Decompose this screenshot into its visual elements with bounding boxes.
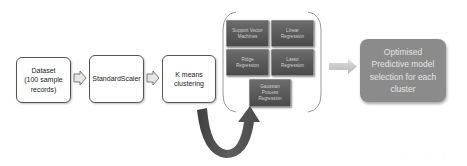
kmeans-box: K means clustering: [162, 55, 216, 103]
curved-arrow-icon: [194, 104, 264, 160]
model-label: Support Vector Machines: [232, 28, 262, 39]
model-box-gaussian: Gaussian Process Regression: [249, 79, 291, 107]
right-arrow-icon: [328, 58, 358, 75]
model-box-lasso: Lasso Regression: [271, 49, 314, 76]
result-box: Optimised Predictive model selection for…: [360, 39, 446, 102]
model-label: Gaussian Process Regression: [258, 84, 281, 101]
dataset-label: Dataset (100 sample records): [24, 66, 63, 94]
model-box-ridge: Ridge Regression: [226, 49, 269, 76]
dataset-box: Dataset (100 sample records): [16, 57, 71, 103]
result-label: Optimised Predictive model selection for…: [370, 46, 437, 95]
standard-scaler-label: StandardScaler: [92, 74, 140, 83]
right-arrow-icon: [146, 70, 160, 86]
model-label: Linear Regression: [281, 28, 304, 39]
model-box-linear: Linear Regression: [271, 20, 314, 47]
model-label: Ridge Regression: [236, 57, 259, 68]
model-label: Lasso Regression: [281, 57, 304, 68]
footer-text: · · · · · · · · ·: [407, 152, 459, 156]
kmeans-label: K means clustering: [174, 70, 204, 89]
right-arrow-icon: [73, 70, 87, 86]
standard-scaler-box: StandardScaler: [89, 55, 144, 103]
model-box-svm: Support Vector Machines: [226, 20, 269, 47]
